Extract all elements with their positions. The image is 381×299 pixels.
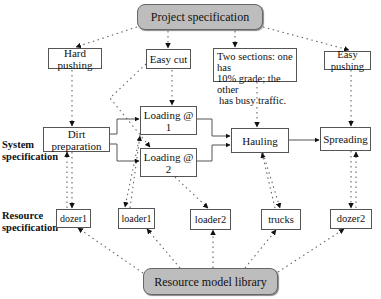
spreading-node[interactable]: Spreading bbox=[320, 127, 371, 151]
loading-2-node[interactable]: Loading @ 2 bbox=[140, 148, 197, 177]
dotted-edge-library-dozer2 bbox=[278, 229, 344, 272]
dozer2-node[interactable]: dozer2 bbox=[330, 209, 372, 229]
dotted-edge-library-loader1 bbox=[147, 229, 180, 268]
loading-1-label: Loading @ 1 bbox=[141, 109, 196, 133]
loader1-node[interactable]: loader1 bbox=[118, 208, 155, 229]
spreading-label: Spreading bbox=[323, 133, 368, 145]
dotted-edge-library-dozer1 bbox=[78, 228, 143, 273]
loading-2-label: Loading @ 2 bbox=[141, 151, 196, 175]
dotted-edge-library-trucks bbox=[245, 230, 276, 268]
easy-pushing-node[interactable]: Easy pushing bbox=[324, 51, 371, 70]
loader2-node[interactable]: loader2 bbox=[190, 209, 231, 230]
dotted-edge-trucks-hauling bbox=[262, 153, 275, 208]
hard-pushing-label: Hard pushing bbox=[49, 47, 101, 71]
resource-label-line-1: Resource bbox=[2, 210, 58, 222]
two-sections-line-3: has busy traffic. bbox=[217, 95, 286, 106]
dotted-edge-loading1-loader1 bbox=[125, 135, 140, 207]
project-specification-label: Project specification bbox=[151, 11, 249, 23]
dirt-preparation-label: Dirt preparation bbox=[44, 128, 109, 152]
dotted-edge-project-easy-pushing bbox=[263, 27, 349, 50]
resource-label-line-2: specification bbox=[2, 222, 58, 234]
dozer2-label: dozer2 bbox=[337, 213, 366, 225]
resource-model-library-node[interactable]: Resource model library bbox=[143, 268, 278, 295]
dirt-preparation-node[interactable]: Dirt preparation bbox=[43, 127, 110, 152]
resource-specification-row-label: Resource specification bbox=[2, 210, 58, 234]
resource-model-library-label: Resource model library bbox=[154, 276, 267, 288]
solid-edge-dirt-loading1 bbox=[110, 119, 139, 134]
easy-pushing-label: Easy pushing bbox=[325, 49, 370, 73]
loading-1-node[interactable]: Loading @ 1 bbox=[140, 106, 197, 135]
trucks-label: trucks bbox=[268, 214, 294, 226]
solid-edge-loading1-hauling bbox=[196, 119, 230, 136]
dozer1-node[interactable]: dozer1 bbox=[56, 209, 91, 228]
two-sections-line-1: Two sections: one has bbox=[217, 51, 293, 73]
easy-cut-node[interactable]: Easy cut bbox=[146, 49, 191, 69]
dotted-edge-loading2-loader2 bbox=[175, 177, 208, 208]
dozer1-label: dozer1 bbox=[60, 213, 87, 225]
two-sections-line-2: 10% grade; the other bbox=[217, 73, 293, 95]
loader2-label: loader2 bbox=[195, 214, 227, 226]
solid-edge-loading2-hauling bbox=[196, 145, 230, 161]
project-specification-node[interactable]: Project specification bbox=[137, 4, 263, 30]
hauling-label: Hauling bbox=[242, 135, 277, 147]
system-label-line-2: specification bbox=[2, 151, 58, 163]
dotted-edge-project-hard-pushing bbox=[76, 27, 137, 47]
trucks-node[interactable]: trucks bbox=[261, 209, 301, 230]
dotted-edge-loader1-loading1 bbox=[130, 136, 140, 208]
two-sections-node[interactable]: Two sections: one has 10% grade; the oth… bbox=[213, 48, 297, 82]
hauling-node[interactable]: Hauling bbox=[231, 128, 289, 153]
easy-cut-label: Easy cut bbox=[150, 53, 188, 65]
loader1-label: loader1 bbox=[122, 213, 152, 225]
hard-pushing-node[interactable]: Hard pushing bbox=[48, 48, 102, 69]
dotted-edge-hauling-trucks bbox=[263, 153, 280, 208]
solid-edge-dirt-loading2 bbox=[110, 144, 139, 161]
